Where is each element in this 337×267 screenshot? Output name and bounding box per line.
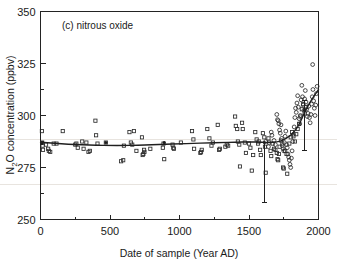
data-point-marker xyxy=(132,130,135,133)
y-tick-label: 275 xyxy=(17,162,35,174)
data-point-marker xyxy=(308,121,312,125)
data-point-marker xyxy=(290,149,294,153)
error-bar xyxy=(262,143,267,203)
axes-layer: 2502753003253500500100015002000 xyxy=(17,6,331,237)
data-point-marker xyxy=(81,140,84,143)
data-point-marker xyxy=(252,153,255,156)
data-point-marker xyxy=(240,121,243,124)
data-point-marker xyxy=(61,130,64,133)
data-point-marker xyxy=(120,160,123,163)
data-point-marker xyxy=(149,147,152,150)
data-point-marker xyxy=(270,154,273,157)
data-point-marker xyxy=(313,114,317,118)
data-point-marker xyxy=(291,140,295,144)
data-point-marker xyxy=(190,130,193,133)
data-point-marker xyxy=(296,94,300,98)
data-point-marker xyxy=(286,172,289,175)
data-point-marker xyxy=(241,127,244,130)
data-point-marker xyxy=(234,115,237,118)
data-point-marker xyxy=(292,125,296,129)
x-tick-label: 1500 xyxy=(237,225,261,237)
data-point-marker xyxy=(238,165,241,168)
data-point-marker xyxy=(267,145,271,149)
data-point-marker xyxy=(85,141,88,144)
data-point-marker xyxy=(259,148,262,151)
data-point-marker xyxy=(303,89,307,93)
x-tick-label: 500 xyxy=(101,225,119,237)
y-tick-label: 350 xyxy=(17,6,35,18)
data-point-marker xyxy=(41,148,44,151)
data-point-marker xyxy=(135,149,138,152)
x-tick-label: 2000 xyxy=(306,225,330,237)
data-point-marker xyxy=(82,147,85,150)
data-point-marker xyxy=(263,136,266,139)
data-point-marker xyxy=(163,158,166,161)
data-point-marker xyxy=(44,143,47,146)
data-point-marker xyxy=(293,116,297,120)
data-point-marker xyxy=(95,134,98,137)
data-point-marker xyxy=(250,169,253,172)
data-point-marker xyxy=(269,149,272,152)
data-point-marker xyxy=(259,153,262,156)
y-tick-label: 300 xyxy=(17,110,35,122)
data-point-marker xyxy=(261,132,264,135)
data-point-marker xyxy=(244,151,247,154)
data-point-marker xyxy=(284,129,288,133)
data-series xyxy=(40,102,307,175)
data-point-marker xyxy=(249,146,252,149)
data-point-marker xyxy=(193,147,196,150)
data-point-marker xyxy=(277,152,280,155)
data-point-marker xyxy=(275,113,279,117)
data-layer xyxy=(40,63,319,203)
x-tick-label: 0 xyxy=(37,225,43,237)
x-tick-label: 1000 xyxy=(167,225,191,237)
data-point-marker xyxy=(216,123,219,126)
data-point-marker xyxy=(294,110,298,114)
data-point-marker xyxy=(161,146,164,149)
figure-panel: 2502753003253500500100015002000 (c) nitr… xyxy=(0,0,337,267)
data-point-marker xyxy=(300,83,304,87)
data-point-marker xyxy=(206,127,209,130)
data-point-marker xyxy=(104,141,107,144)
data-point-marker xyxy=(295,101,299,105)
data-point-marker xyxy=(94,119,97,122)
y-tick-label: 325 xyxy=(17,58,35,70)
x-axis-title: Date of sample (Year AD) xyxy=(120,247,239,259)
y-tick-label: 250 xyxy=(17,214,35,226)
data-series xyxy=(264,63,319,170)
data-point-marker xyxy=(128,131,131,134)
data-point-marker xyxy=(311,63,315,67)
data-point-marker xyxy=(122,159,125,162)
data-point-marker xyxy=(140,136,143,139)
panel-label: (c) nitrous oxide xyxy=(62,20,134,31)
data-point-marker xyxy=(311,88,315,92)
data-point-marker xyxy=(254,131,257,134)
nitrous-oxide-scatter-chart: 2502753003253500500100015002000 (c) nitr… xyxy=(0,0,337,267)
